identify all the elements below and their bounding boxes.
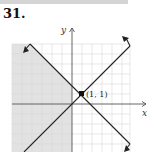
arrowhead-icon bbox=[124, 145, 130, 152]
x-axis-label: x bbox=[142, 108, 147, 118]
intersection-point bbox=[79, 91, 84, 96]
point-label: (1, 1) bbox=[86, 90, 108, 99]
y-axis-label: y bbox=[60, 25, 67, 35]
coordinate-graph: x y (1, 1) bbox=[0, 0, 154, 152]
